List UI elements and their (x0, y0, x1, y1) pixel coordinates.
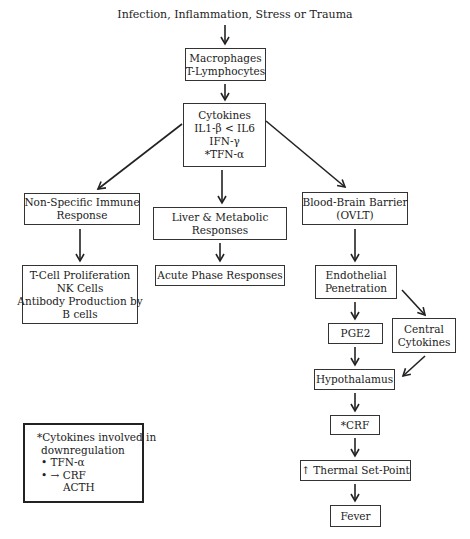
node-text: T-Cell Proliferation (30, 269, 131, 282)
node-text: NK Cells (57, 282, 104, 295)
node-text: *TFN-α (205, 148, 244, 161)
node-text: Fever (340, 510, 370, 523)
node-text: Acute Phase Responses (157, 269, 282, 282)
node-macrophages: Macrophages T-Lymphocytes (185, 48, 266, 81)
node-text: ↑ Thermal Set-Point (301, 464, 410, 477)
node-text: Response (57, 209, 108, 222)
legend-item: • → CRF (37, 469, 134, 482)
arrow-central-hypothalamus (403, 356, 425, 376)
node-text: B cells (62, 308, 97, 321)
node-nonspecific-immune: Non-Specific Immune Response (24, 193, 140, 225)
node-text: *CRF (341, 419, 369, 432)
node-tcell-proliferation: T-Cell Proliferation NK Cells Antibody P… (22, 265, 138, 324)
diagram-title: Infection, Inflammation, Stress or Traum… (0, 8, 470, 21)
node-text: PGE2 (341, 327, 371, 340)
legend-item: • TFN-α (37, 456, 134, 469)
node-text: Central (404, 323, 444, 336)
legend-heading: *Cytokines involved in (37, 431, 134, 444)
node-endothelial-penetration: Endothelial Penetration (315, 265, 397, 299)
node-text: T-Lymphocytes (186, 65, 265, 78)
node-pge2: PGE2 (328, 323, 383, 344)
node-liver-metabolic: Liver & Metabolic Responses (153, 207, 287, 240)
legend-item: ACTH (37, 481, 134, 494)
node-thermal-set-point: ↑ Thermal Set-Point (300, 460, 411, 481)
node-text: IL1-β < IL6 (194, 122, 255, 135)
node-text: (OVLT) (336, 209, 373, 222)
legend-subheading: downregulation (37, 444, 134, 457)
node-text: Endothelial (325, 269, 386, 282)
node-hypothalamus: Hypothalamus (314, 369, 395, 390)
node-crf: *CRF (330, 415, 380, 435)
node-text: Antibody Production by (17, 295, 142, 308)
node-blood-brain-barrier: Blood-Brain Barrier (OVLT) (302, 192, 408, 225)
node-central-cytokines: Central Cytokines (392, 318, 456, 353)
node-fever: Fever (330, 505, 381, 527)
node-text: Non-Specific Immune (24, 196, 139, 209)
node-text: Responses (192, 224, 248, 237)
arrow-endothelial-central (402, 290, 425, 315)
node-text: Cytokines (198, 109, 251, 122)
node-acute-phase: Acute Phase Responses (155, 265, 285, 286)
node-text: Cytokines (398, 336, 451, 349)
node-text: Macrophages (189, 52, 261, 65)
legend-box: *Cytokines involved in downregulation • … (23, 423, 144, 503)
node-text: Penetration (325, 282, 387, 295)
node-text: Hypothalamus (316, 373, 393, 386)
arrow-cytokines-bbb (266, 121, 345, 187)
node-text: Blood-Brain Barrier (302, 196, 407, 209)
node-text: Liver & Metabolic (172, 211, 269, 224)
node-cytokines: Cytokines IL1-β < IL6 IFN-γ *TFN-α (183, 103, 266, 167)
node-text: IFN-γ (209, 135, 239, 148)
arrow-cytokines-nonspecific (98, 124, 182, 189)
